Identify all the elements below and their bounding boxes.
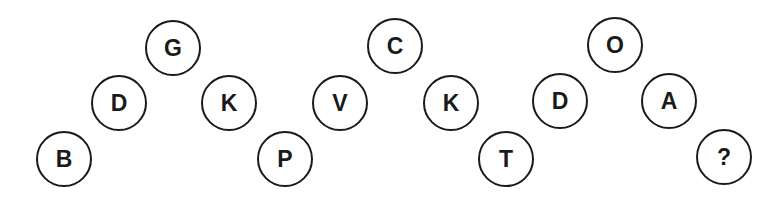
node-letter: P xyxy=(277,146,292,173)
circle-node-d: D xyxy=(91,75,147,131)
node-letter: K xyxy=(221,90,238,117)
circle-node-k: K xyxy=(201,75,257,131)
node-letter: C xyxy=(387,33,404,60)
node-letter: B xyxy=(56,146,73,173)
circle-node-g: G xyxy=(145,20,201,76)
circle-node-b: B xyxy=(36,131,92,187)
circle-node-c: C xyxy=(367,18,423,74)
circle-node-a: A xyxy=(641,73,697,129)
node-letter: T xyxy=(499,146,513,173)
circle-node-v: V xyxy=(312,75,368,131)
circle-node-t: T xyxy=(478,131,534,187)
node-letter: V xyxy=(332,90,347,117)
node-letter: O xyxy=(606,32,624,59)
node-letter: D xyxy=(111,90,128,117)
circle-node-p: P xyxy=(257,131,313,187)
node-letter: A xyxy=(661,88,678,115)
circle-node-o: O xyxy=(587,17,643,73)
circle-node-k2: K xyxy=(423,75,479,131)
circle-node-d2: D xyxy=(532,73,588,129)
node-letter: G xyxy=(164,35,182,62)
node-letter: D xyxy=(552,88,569,115)
question-mark-icon: ? xyxy=(717,144,731,171)
node-letter: K xyxy=(443,90,460,117)
circle-node-unknown: ? xyxy=(696,129,752,185)
